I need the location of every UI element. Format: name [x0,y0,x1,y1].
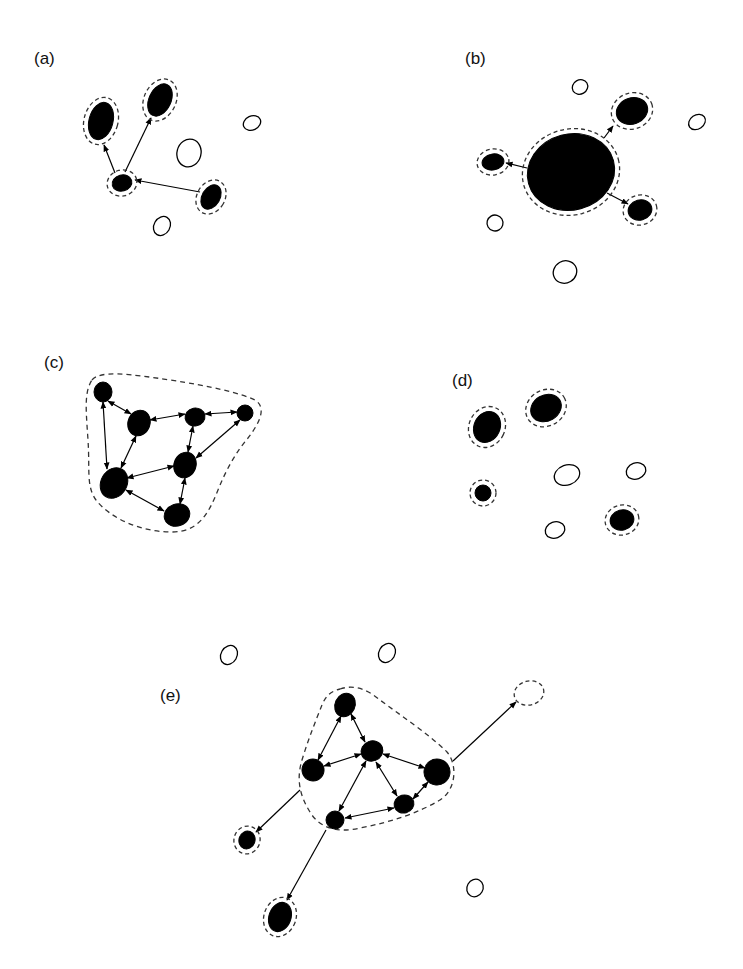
node-filled [170,449,200,481]
panel-a [78,73,263,238]
node-filled [475,485,491,501]
node-empty [549,256,581,287]
edge-arrow [135,180,200,192]
node-filled [94,382,112,402]
panel-e [217,640,547,941]
panel-d [462,382,648,541]
edge-arrow [104,145,115,173]
node-filled [95,463,134,504]
node-empty [686,111,709,133]
edge-arrow [339,761,366,811]
node-filled [110,173,133,194]
node-empty [570,77,591,97]
edge-arrow [345,808,394,818]
edge-arrow [150,414,185,420]
node-filled [481,152,505,172]
edge-arrow [205,412,237,414]
edge-arrow [196,420,240,458]
node-filled [358,738,386,764]
edge-arrow [103,402,107,469]
edge-arrow [453,702,516,761]
node-filled [161,500,193,530]
edge-arrow [604,126,613,138]
node-filled [526,389,567,428]
edge-arrow [351,714,365,742]
edge-arrow [318,716,341,760]
node-empty [624,460,648,482]
node-filled [143,80,177,120]
panel-b [475,77,708,288]
node-filled [184,406,207,427]
edge-arrow [287,830,326,900]
node-empty [150,213,174,238]
edge-arrow [121,436,136,468]
edge-arrow [413,782,428,799]
network-diagram-figure [0,0,743,969]
edge-arrow [180,478,185,504]
node-empty [484,212,506,234]
node-filled [626,197,654,223]
node-filled [519,124,624,220]
edge-arrow [324,754,361,766]
node-empty [511,678,546,709]
node-filled [299,756,327,784]
node-filled [236,829,257,851]
node-filled [468,407,505,447]
panel-c [86,374,261,532]
node-empty [543,519,567,541]
node-empty [241,113,263,133]
node-filled [608,507,636,533]
node-filled [124,407,154,439]
edge-arrow [127,466,174,478]
node-empty [174,136,204,169]
node-filled [326,811,344,829]
edge-arrow [126,490,164,511]
diagram-panels [78,73,708,941]
node-empty [551,461,582,489]
edge-arrow [125,118,151,172]
node-empty [464,876,487,900]
node-filled [422,757,452,787]
edge-arrow [376,762,397,796]
node-filled [197,181,226,213]
node-filled [392,793,416,816]
node-empty [375,640,399,665]
node-filled [84,100,117,143]
node-filled [237,405,253,421]
edge-arrow [108,401,131,414]
edge-arrow [188,426,193,452]
node-empty [217,642,241,667]
node-filled [331,690,359,720]
edge-arrow [256,790,300,832]
edge-arrow [383,754,425,768]
